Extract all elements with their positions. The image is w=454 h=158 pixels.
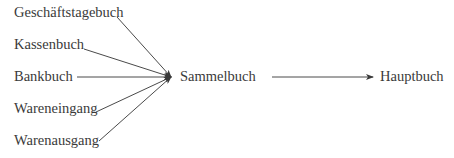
node-geschaeftstagebuch: Geschäftstagebuch [14, 5, 124, 20]
node-bankbuch: Bankbuch [14, 69, 73, 84]
node-wareneingang: Wareneingang [14, 101, 97, 116]
node-kassenbuch: Kassenbuch [14, 37, 84, 52]
arrow-warenausgang-to-sammelbuch [99, 77, 171, 141]
node-sammelbuch: Sammelbuch [180, 69, 256, 84]
bookkeeping-flow-diagram: Geschäftstagebuch Kassenbuch Bankbuch Wa… [0, 0, 454, 158]
node-hauptbuch: Hauptbuch [380, 69, 444, 84]
node-warenausgang: Warenausgang [14, 133, 99, 148]
arrow-wareneingang-to-sammelbuch [96, 77, 171, 112]
